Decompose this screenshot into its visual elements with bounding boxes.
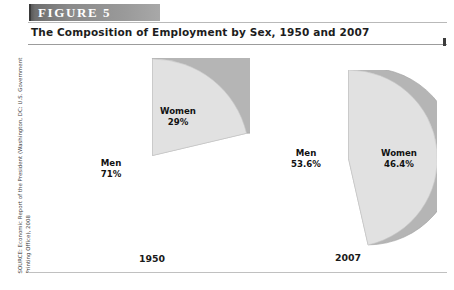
header-rule-end-tick [443, 38, 446, 46]
pie-chart-2007: Women 46.4% Men 53.6% [260, 70, 437, 247]
figure-panel: FIGURE 5 The Composition of Employment b… [0, 0, 454, 290]
figure-title: The Composition of Employment by Sex, 19… [31, 26, 369, 38]
pie-2007-women-value: 46.4% [368, 159, 430, 170]
pie-1950-women-name: Women [160, 106, 196, 116]
figure-number-badge: FIGURE 5 [29, 4, 160, 21]
source-note: SOURCE: Economic Report of the President… [17, 52, 32, 274]
header-rule-bottom [28, 44, 447, 45]
figure-number-label: FIGURE 5 [38, 5, 111, 21]
pie-2007-women-name: Women [381, 148, 417, 158]
pie-2007-year-label: 2007 [306, 252, 390, 263]
pie-2007-men-name: Men [296, 148, 317, 158]
pie-2007-women-label: Women 46.4% [368, 148, 430, 170]
footer-rule [28, 272, 447, 273]
pie-chart-1950: Women 29% Men 71% [55, 58, 250, 253]
pie-1950-men-name: Men [101, 158, 122, 168]
pie-2007-men-value: 53.6% [277, 159, 335, 170]
pie-1950-women-label: Women 29% [147, 106, 209, 128]
pie-1950-svg [55, 58, 250, 253]
pie-2007-men-label: Men 53.6% [277, 148, 335, 170]
pie-1950-women-value: 29% [147, 117, 209, 128]
pie-1950-year-label: 1950 [110, 253, 194, 264]
header-rule-top [28, 22, 447, 23]
pie-1950-men-label: Men 71% [83, 158, 139, 180]
pie-1950-men-value: 71% [83, 169, 139, 180]
